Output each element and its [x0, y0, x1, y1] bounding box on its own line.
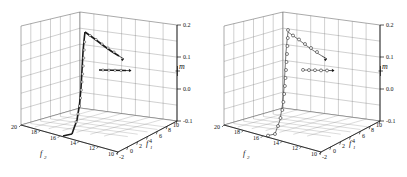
axis-label-f2: f 2	[243, 149, 250, 160]
m-tick-0.0: 0.0	[183, 86, 191, 92]
f1-tick-10: 10	[376, 122, 382, 128]
f2-tick-12: 12	[292, 145, 298, 151]
m-tick-0.1: 0.1	[386, 54, 394, 60]
f2-tick-18: 18	[234, 129, 240, 135]
f1-tick-10: 10	[173, 122, 179, 128]
plot-svg-left: -0.1 0.0 0.1 0.2 m 20 18 16 14 12 10 f 2	[0, 0, 204, 177]
m-tick-0.0: 0.0	[386, 86, 394, 92]
f2-tick-20: 20	[11, 124, 17, 130]
svg-text:1: 1	[150, 145, 153, 150]
plot-svg-right: -0.1 0.0 0.1 0.2 m 20 18 16 14 12 10 f 2	[203, 0, 407, 177]
f1-tick-4: 4	[352, 138, 355, 144]
f1-tick-6: 6	[362, 133, 365, 139]
svg-text:2: 2	[247, 155, 250, 160]
f2-tick-10: 10	[311, 151, 317, 157]
f1-tick-4: 4	[149, 138, 152, 144]
f1-tick-8: 8	[168, 127, 171, 133]
f2-tick-14: 14	[273, 140, 279, 146]
f2-tick-16: 16	[50, 135, 56, 141]
plot-panel-right: -0.1 0.0 0.1 0.2 m 20 18 16 14 12 10 f 2	[203, 0, 407, 177]
grid-walls-right	[224, 12, 380, 152]
axis-label-m: m	[382, 62, 388, 71]
f1-tick-6: 6	[159, 133, 162, 139]
f2-tick-12: 12	[89, 145, 95, 151]
axis-label-m: m	[179, 62, 185, 71]
m-tick--0.1: -0.1	[183, 118, 193, 124]
f1-tick-0: 0	[333, 148, 336, 154]
f2-tick-14: 14	[70, 140, 76, 146]
f2-tick-10: 10	[108, 151, 114, 157]
f2-tick-16: 16	[253, 135, 259, 141]
svg-text:2: 2	[44, 155, 47, 160]
f1-tick--2: -2	[119, 154, 124, 160]
m-tick-0.2: 0.2	[386, 22, 394, 28]
f1-tick--2: -2	[322, 154, 327, 160]
m-tick-0.2: 0.2	[183, 22, 191, 28]
f2-tick-18: 18	[31, 129, 37, 135]
f1-tick-2: 2	[139, 143, 142, 149]
figure-3d-bifurcation-pair: -0.1 0.0 0.1 0.2 m 20 18 16 14 12 10 f 2	[0, 0, 407, 177]
f1-tick-8: 8	[371, 127, 374, 133]
m-tick-0.1: 0.1	[183, 54, 191, 60]
plot-panel-left: -0.1 0.0 0.1 0.2 m 20 18 16 14 12 10 f 2	[0, 0, 204, 177]
grid-walls-left	[21, 12, 177, 152]
axis-label-f2: f 2	[40, 149, 47, 160]
f1-tick-2: 2	[342, 143, 345, 149]
svg-text:1: 1	[353, 145, 356, 150]
f2-tick-20: 20	[214, 124, 220, 130]
m-tick--0.1: -0.1	[386, 118, 396, 124]
f1-tick-0: 0	[130, 148, 133, 154]
